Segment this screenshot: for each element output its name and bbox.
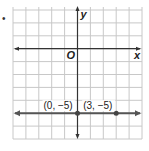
- x-axis-label: x: [133, 49, 141, 61]
- y-axis-label: y: [80, 8, 88, 20]
- arrow-icon: [135, 110, 141, 116]
- arrow-icon: [76, 134, 80, 139]
- arrow-icon: [14, 110, 20, 116]
- coordinate-plane: yxO(0, −5)(3, −5): [0, 0, 149, 151]
- data-point: [75, 111, 80, 116]
- data-point: [114, 111, 119, 116]
- arrow-icon: [76, 6, 80, 11]
- arrow-icon: [14, 47, 19, 51]
- point-label: (0, −5): [44, 100, 73, 111]
- origin-label: O: [67, 49, 76, 61]
- point-label: (3, −5): [83, 100, 112, 111]
